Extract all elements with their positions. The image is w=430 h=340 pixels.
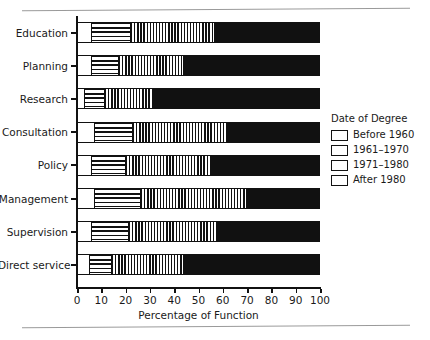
- x-axis-title: Percentage of Function: [77, 309, 320, 321]
- bar-row: [77, 254, 320, 275]
- y-axis-label: Consultation: [0, 126, 68, 138]
- legend-item: Before 1960: [331, 128, 429, 142]
- bar-segment: [92, 56, 119, 75]
- legend-swatch: [331, 145, 348, 156]
- x-axis-tick: [126, 289, 128, 293]
- x-axis-tick: [296, 289, 298, 293]
- y-axis-label: Supervision: [0, 226, 68, 238]
- bar-segment: [227, 123, 319, 142]
- bar-segment: [133, 123, 227, 142]
- x-axis-tick: [247, 289, 249, 293]
- bar-segment: [126, 156, 210, 175]
- x-axis-tick: [174, 289, 176, 293]
- bar-segment: [78, 89, 85, 108]
- bar-segment: [78, 123, 95, 142]
- bar-segment: [78, 23, 92, 42]
- x-axis-tick: [223, 289, 225, 293]
- y-axis-tick: [71, 264, 76, 266]
- legend-label: After 1980: [353, 174, 406, 186]
- x-axis-tick: [199, 289, 201, 293]
- bar-segment: [78, 222, 92, 241]
- bar-segment: [215, 23, 319, 42]
- x-axis-tick: [150, 289, 152, 293]
- bar-segment: [105, 89, 153, 108]
- y-axis-label: Planning: [0, 60, 68, 72]
- bar-segment: [186, 255, 319, 274]
- y-axis-label: Policy: [0, 159, 68, 171]
- legend-swatch: [331, 175, 348, 186]
- bar-segment: [131, 23, 215, 42]
- x-axis-tick: [271, 289, 273, 293]
- y-axis-tick: [71, 231, 76, 233]
- bar-row: [77, 155, 320, 176]
- stacked-bar-chart: EducationPlanningResearchConsultationPol…: [0, 0, 430, 340]
- bar-segment: [78, 189, 95, 208]
- legend-item: After 1980: [331, 173, 429, 187]
- legend: Date of Degree Before 19601961–19701971–…: [331, 112, 429, 188]
- bar-segment: [78, 255, 90, 274]
- bar-row: [77, 22, 320, 43]
- legend-item: 1961–1970: [331, 143, 429, 157]
- y-axis-tick: [71, 131, 76, 133]
- bar-segment: [141, 189, 247, 208]
- bar-segment: [92, 222, 128, 241]
- y-axis-tick: [71, 32, 76, 34]
- legend-swatch: [331, 130, 348, 141]
- bar-row: [77, 88, 320, 109]
- bar-row: [77, 55, 320, 76]
- bar-segment: [90, 255, 112, 274]
- bar-segment: [129, 222, 218, 241]
- y-axis-label: Education: [0, 27, 68, 39]
- y-axis-label: Direct service: [0, 259, 68, 271]
- legend-swatch: [331, 160, 348, 171]
- bar-segment: [218, 222, 319, 241]
- bar-segment: [247, 189, 319, 208]
- bar-segment: [95, 123, 134, 142]
- bar-segment: [78, 56, 92, 75]
- legend-label: Before 1960: [353, 129, 414, 141]
- legend-item: 1971–1980: [331, 158, 429, 172]
- legend-title: Date of Degree: [331, 112, 429, 125]
- y-axis-tick: [71, 198, 76, 200]
- bar-row: [77, 221, 320, 242]
- bar-row: [77, 122, 320, 143]
- bar-segment: [78, 156, 92, 175]
- bar-segment: [211, 156, 319, 175]
- y-axis-tick: [71, 164, 76, 166]
- bar-segment: [92, 156, 126, 175]
- bar-segment: [95, 189, 141, 208]
- x-axis-tick: [101, 289, 103, 293]
- y-axis-label: Research: [0, 93, 68, 105]
- bar-segment: [112, 255, 187, 274]
- legend-label: 1971–1980: [353, 159, 409, 171]
- bar-segment: [119, 56, 184, 75]
- bar-segment: [184, 56, 319, 75]
- bar-segment: [92, 23, 131, 42]
- plot-area: [77, 18, 320, 284]
- y-axis-tick: [71, 65, 76, 67]
- y-axis-tick: [71, 98, 76, 100]
- legend-label: 1961–1970: [353, 144, 409, 156]
- y-axis-label: Management: [0, 193, 68, 205]
- bar-segment: [153, 89, 319, 108]
- bar-row: [77, 188, 320, 209]
- bar-segment: [85, 89, 104, 108]
- x-axis-tick: [320, 289, 322, 293]
- x-axis-tick: [77, 289, 79, 293]
- x-axis-tick-label: 100: [305, 294, 335, 307]
